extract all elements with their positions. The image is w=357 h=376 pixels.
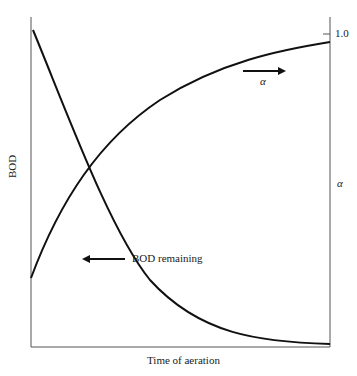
y2-tick-label: 1.0 bbox=[335, 27, 349, 39]
bod-remaining-curve bbox=[33, 30, 330, 344]
arrow-right-icon bbox=[278, 67, 286, 75]
chart-canvas bbox=[0, 0, 357, 376]
y-axis-label: BOD bbox=[6, 155, 18, 178]
alpha-annotation: α bbox=[260, 75, 266, 87]
x-axis-label: Time of aeration bbox=[147, 354, 220, 366]
bod-remaining-annotation: BOD remaining bbox=[132, 252, 203, 264]
arrow-left-icon bbox=[82, 255, 90, 263]
y2-axis-label: α bbox=[337, 177, 343, 189]
alpha-curve bbox=[31, 42, 330, 278]
